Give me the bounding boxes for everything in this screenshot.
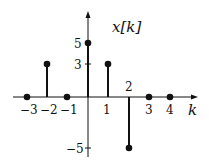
x-tick-label-3: 3 xyxy=(145,103,153,117)
y-tick-label-minus5: −5 xyxy=(66,142,84,156)
x-tick-label-4: 4 xyxy=(166,103,174,117)
marker-k-1 xyxy=(105,61,112,68)
y-tick-label-3: 3 xyxy=(74,58,82,72)
marker-k-4 xyxy=(167,94,174,101)
marker-k-2 xyxy=(126,145,133,152)
marker-k-minus2 xyxy=(44,61,51,68)
marker-k-3 xyxy=(146,94,153,101)
stem-plot: x[k] 5 3 −5 −3 −2 −1 1 2 3 4 k xyxy=(0,0,209,164)
function-label: x[k] xyxy=(112,18,141,36)
x-tick-label-minus3: −3 xyxy=(20,103,38,117)
marker-k-0 xyxy=(85,40,92,47)
y-tick-label-5: 5 xyxy=(74,37,82,51)
marker-k-minus1 xyxy=(64,94,71,101)
y-axis-arrow-icon xyxy=(86,11,91,18)
x-tick-label-2: 2 xyxy=(125,80,133,94)
marker-k-minus3 xyxy=(24,94,31,101)
x-tick-label-1: 1 xyxy=(103,103,111,117)
x-tick-label-minus2: −2 xyxy=(40,103,58,117)
x-axis-arrow-icon xyxy=(191,95,198,100)
x-axis-label: k xyxy=(188,101,197,119)
x-tick-label-minus1: −1 xyxy=(60,103,78,117)
